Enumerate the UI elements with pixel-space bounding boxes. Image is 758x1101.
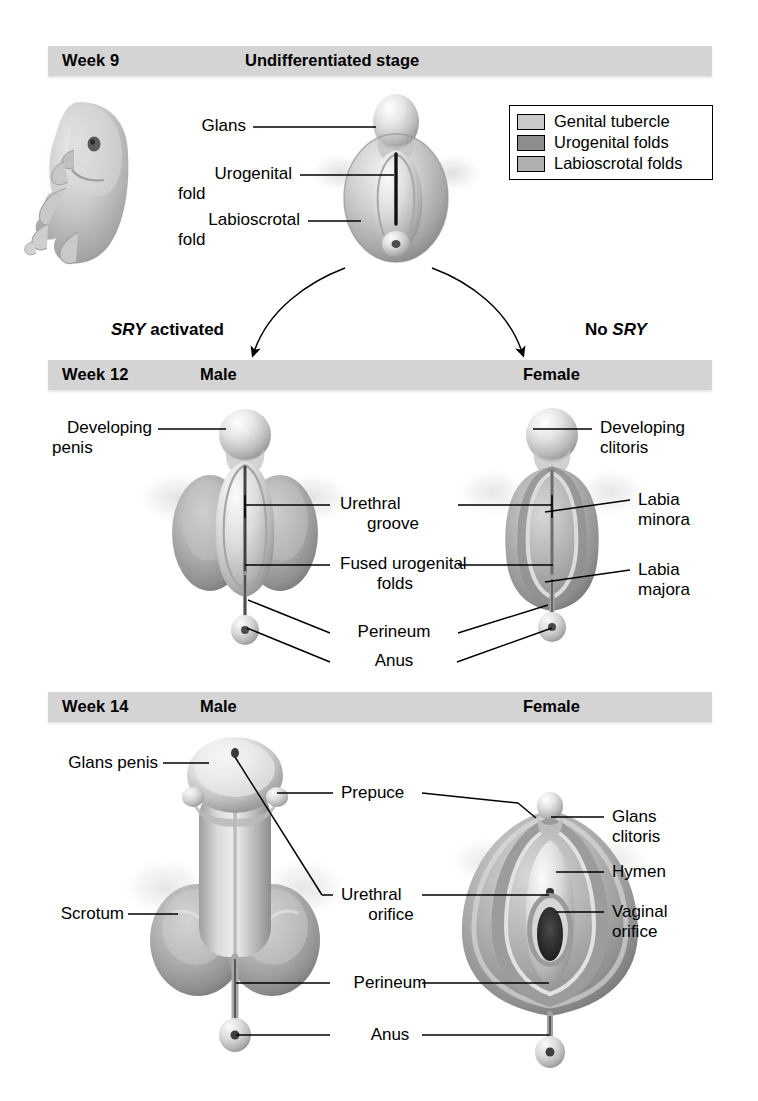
week12-female-label: Female [523,365,580,384]
week14-label-scrotum: Scrotum [18,904,124,924]
week12-label-fused-folds-line2: folds [340,574,450,594]
arrow-female-pathway [432,268,522,352]
diagram-canvas: Week 9 Undifferentiated stage [0,0,758,1101]
sry-gene-female: SRY [612,320,647,339]
week12-label-developing-clitoris-line1: Developing [600,418,750,438]
legend-swatch-labioscrotal-folds [517,156,545,172]
legend-label-genital-tubercle: Genital tubercle [554,113,670,130]
legend-label-urogenital-folds: Urogenital folds [554,134,669,151]
legend-item: Urogenital folds [517,132,703,153]
leader-labia-minora [545,500,630,512]
legend-item: Labioscrotal folds [517,153,703,174]
week12-label-developing-clitoris-line2: clitoris [600,438,750,458]
week12-week-label: Week 12 [62,365,128,384]
sry-activated-label: SRY activated [92,300,224,360]
week12-label-urethral-groove-line2: groove [340,514,446,534]
week12-label-labia-minora-line1: Labia [638,490,748,510]
week9-label-glans: Glans [100,116,246,136]
week12-male-label: Male [200,365,237,384]
leader-anus-male [247,628,330,662]
week9-label-labioscrotal-fold-line2: fold [178,230,298,250]
week12-label-developing-penis-line2: penis [52,438,172,458]
week12-label-labia-majora-line1: Labia [638,560,748,580]
week12-label-fused-folds-line1: Fused urogenital [340,554,520,574]
week14-label-glans-clitoris-line1: Glans [612,807,742,827]
week12-label-anus: Anus [340,651,448,671]
week14-label-urethral-orifice-line1: Urethral [341,885,461,905]
arrow-male-pathway [254,268,345,352]
week14-label-anus: Anus [336,1025,444,1045]
week12-label-labia-majora-line2: majora [638,580,748,600]
week14-label-hymen: Hymen [612,862,742,882]
week14-label-glans-clitoris-line2: clitoris [612,827,742,847]
week14-label-urethral-orifice-line2: orifice [341,905,441,925]
leader-labia-majora [545,570,630,582]
week12-label-urethral-groove-line1: Urethral [340,494,460,514]
week12-header-bar: Week 12 Male Female [48,360,712,390]
legend-item: Genital tubercle [517,111,703,132]
leader-prepuce-female-2 [518,803,536,818]
week12-label-perineum: Perineum [340,622,448,642]
legend-label-labioscrotal-folds: Labioscrotal folds [554,155,682,172]
week14-label-prepuce: Prepuce [341,783,461,803]
week12-label-labia-minora-line2: minora [638,510,748,530]
week14-label-perineum: Perineum [336,973,444,993]
week14-label-vaginal-orifice-line1: Vaginal [612,902,742,922]
no-sry-label: No SRY [566,300,647,360]
no-sry-prefix: No [585,320,612,339]
legend-swatch-genital-tubercle [517,114,545,130]
week14-label-vaginal-orifice-line2: orifice [612,922,742,942]
sry-activated-suffix: activated [146,320,224,339]
week14-label-glans-penis: Glans penis [18,753,158,773]
legend-box: Genital tubercle Urogenital folds Labios… [509,105,713,180]
leader-perineum-male [248,600,330,633]
leader-urethral-orifice-male [235,757,322,895]
week9-label-urogenital-fold-line2: fold [178,184,298,204]
leader-perineum-female [458,605,548,633]
leader-anus-female [457,628,552,662]
sry-gene-male: SRY [111,320,146,339]
week12-label-developing-penis-line1: Developing [20,418,152,438]
week9-label-urogenital-fold-line1: Urogenital [120,164,292,184]
week9-label-labioscrotal-fold-line1: Labioscrotal [120,210,300,230]
legend-swatch-urogenital-folds [517,135,545,151]
